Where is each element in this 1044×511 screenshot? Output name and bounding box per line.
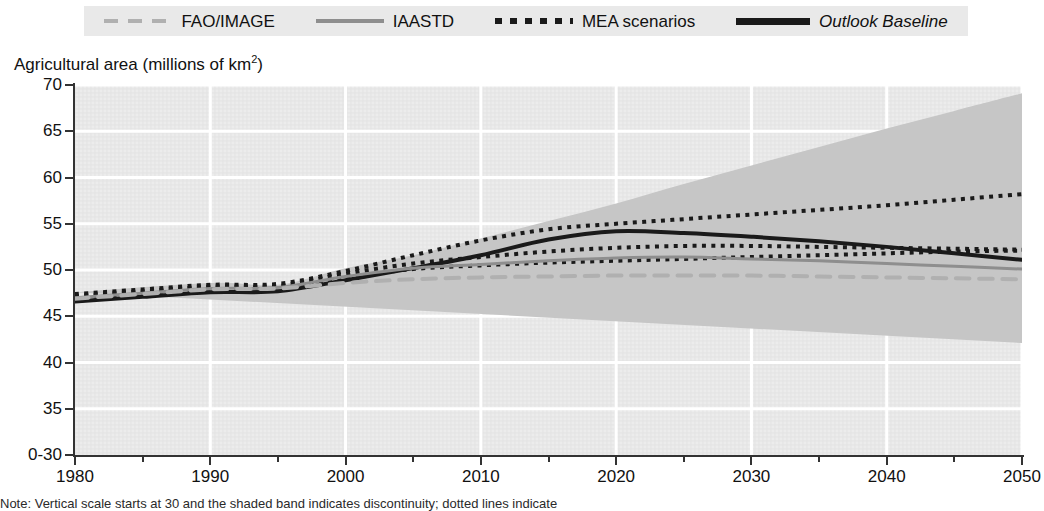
plot-area <box>75 85 1022 455</box>
legend-swatch-icon <box>495 18 573 24</box>
legend-label: FAO/IMAGE <box>181 13 275 30</box>
y-axis-tick <box>65 454 74 456</box>
legend-item-outlook-baseline[interactable]: Outlook Baseline <box>736 13 948 30</box>
y-axis-title-text: Agricultural area (millions of km <box>14 55 251 74</box>
x-axis-tick <box>1021 457 1023 465</box>
y-axis-tick <box>65 362 74 364</box>
x-axis-label: 2010 <box>462 468 500 485</box>
x-axis-minor-tick <box>818 457 820 462</box>
x-axis-tick <box>750 457 752 465</box>
y-axis-label-text: 70 <box>6 76 62 93</box>
legend-swatch-icon <box>104 19 172 23</box>
x-axis-minor-tick <box>277 457 279 462</box>
legend-swatch-icon <box>736 18 810 25</box>
x-axis-minor-tick <box>412 457 414 462</box>
legend-label: Outlook Baseline <box>819 13 948 30</box>
x-axis-label: 1980 <box>56 468 94 485</box>
y-axis-title: Agricultural area (millions of km2) <box>14 50 263 74</box>
y-axis-label-text: 65 <box>6 122 62 139</box>
y-axis-tick <box>65 223 74 225</box>
legend-label: MEA scenarios <box>582 13 695 30</box>
x-axis-label: 2020 <box>597 468 635 485</box>
x-axis-tick <box>615 457 617 465</box>
x-axis-minor-tick <box>953 457 955 462</box>
y-axis-title-close: ) <box>257 55 263 74</box>
legend-item-mea-scenarios[interactable]: MEA scenarios <box>495 13 695 30</box>
legend-item-iaastd[interactable]: IAASTD <box>316 13 454 30</box>
y-axis-tick <box>65 130 74 132</box>
legend-item-fao-image[interactable]: FAO/IMAGE <box>104 13 275 30</box>
x-axis-minor-tick <box>142 457 144 462</box>
x-axis-tick <box>345 457 347 465</box>
x-axis-tick <box>480 457 482 465</box>
y-axis-tick <box>65 269 74 271</box>
x-axis-label: 2030 <box>733 468 771 485</box>
y-axis-tick <box>65 177 74 179</box>
x-axis-minor-tick <box>548 457 550 462</box>
chart-legend: FAO/IMAGEIAASTDMEA scenariosOutlook Base… <box>84 6 968 36</box>
y-axis-label-text: 45 <box>6 307 62 324</box>
x-axis-minor-tick <box>683 457 685 462</box>
y-axis-tick <box>65 84 74 86</box>
x-axis-label: 2050 <box>1003 468 1041 485</box>
x-axis-tick <box>209 457 211 465</box>
x-axis-tick <box>74 457 76 465</box>
y-axis-label-text: 0-30 <box>6 446 62 463</box>
y-axis-label-text: 40 <box>6 354 62 371</box>
y-axis-label-text: 35 <box>6 400 62 417</box>
y-axis-label-text: 60 <box>6 169 62 186</box>
y-axis-tick <box>65 408 74 410</box>
chart-canvas <box>75 85 1022 455</box>
x-axis-tick <box>886 457 888 465</box>
y-axis-label-text: 50 <box>6 261 62 278</box>
y-axis-tick <box>65 315 74 317</box>
x-axis-label: 2040 <box>868 468 906 485</box>
chart-page: FAO/IMAGEIAASTDMEA scenariosOutlook Base… <box>0 0 1044 511</box>
figure-caption: Note: Vertical scale starts at 30 and th… <box>0 496 1044 511</box>
legend-swatch-icon <box>316 19 384 23</box>
x-axis-label: 1990 <box>191 468 229 485</box>
x-axis-label: 2000 <box>327 468 365 485</box>
legend-label: IAASTD <box>393 13 454 30</box>
y-axis-label-text: 55 <box>6 215 62 232</box>
